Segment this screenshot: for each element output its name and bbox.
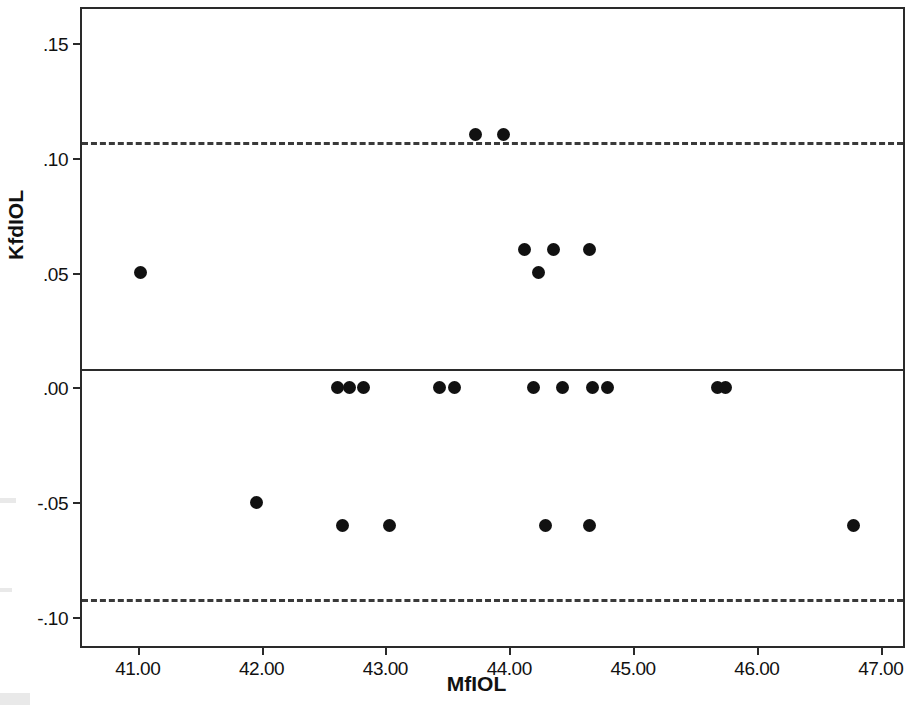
y-axis-tick: .05 — [73, 273, 82, 275]
data-point — [719, 381, 732, 394]
data-point — [583, 243, 596, 256]
data-point — [586, 381, 599, 394]
x-axis-tick — [385, 646, 387, 655]
x-axis-tick — [138, 646, 140, 655]
y-axis-tick: .00 — [73, 387, 82, 389]
y-axis-tick-label: .15 — [43, 34, 68, 56]
data-point — [134, 266, 147, 279]
y-axis-tick: -.05 — [73, 502, 82, 504]
mean-difference-line — [82, 369, 903, 371]
data-point — [336, 519, 349, 532]
x-axis-title-text: MfIOL — [407, 672, 506, 695]
x-axis-tick — [509, 646, 511, 655]
scan-artifact — [0, 588, 12, 592]
data-point — [583, 519, 596, 532]
x-axis-title: MfIOL — [0, 672, 913, 696]
y-axis-tick-label: .00 — [43, 378, 68, 400]
data-point — [847, 519, 860, 532]
plot-area: .15.10.05.00-.05-.1041.0042.0043.0044.00… — [80, 7, 905, 648]
y-axis-tick-label: -.05 — [37, 493, 68, 515]
x-axis-tick — [633, 646, 635, 655]
data-point — [601, 381, 614, 394]
data-point — [497, 128, 510, 141]
y-axis-tick-label: -.10 — [37, 608, 68, 630]
y-axis-tick: .10 — [73, 158, 82, 160]
y-axis-tick: .15 — [73, 43, 82, 45]
x-axis-tick — [262, 646, 264, 655]
y-axis-tick-label: .10 — [43, 149, 68, 171]
scatter-chart: .15.10.05.00-.05-.1041.0042.0043.0044.00… — [0, 0, 913, 715]
data-point — [556, 381, 569, 394]
data-point — [539, 519, 552, 532]
data-point — [250, 496, 263, 509]
y-axis-tick: -.10 — [73, 617, 82, 619]
data-point — [357, 381, 370, 394]
data-point — [527, 381, 540, 394]
lower-limit-of-agreement-line — [82, 599, 903, 602]
data-point — [448, 381, 461, 394]
data-point — [469, 128, 482, 141]
data-point — [331, 381, 344, 394]
data-point — [532, 266, 545, 279]
y-axis-tick-label: .05 — [43, 264, 68, 286]
data-point — [383, 519, 396, 532]
data-point — [433, 381, 446, 394]
data-point — [343, 381, 356, 394]
scan-artifact — [0, 498, 16, 503]
data-point — [547, 243, 560, 256]
x-axis-tick — [881, 646, 883, 655]
y-axis-title: KfdIOL — [4, 190, 28, 260]
upper-limit-of-agreement-line — [82, 142, 903, 145]
data-point — [518, 243, 531, 256]
x-axis-tick — [757, 646, 759, 655]
